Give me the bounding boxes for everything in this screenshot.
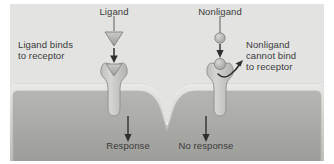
diagram-graphics <box>10 4 324 161</box>
nonligand-title-label: Nonligand <box>186 6 254 18</box>
ligand-binds-line1: Ligand binds <box>18 39 98 51</box>
ligand-binds-line2: to receptor <box>18 50 98 62</box>
ligand-binding-arrow <box>110 48 118 63</box>
ligand-molecule-free <box>105 16 123 46</box>
nonligand-molecule <box>214 16 225 70</box>
receptor-binding-figure: Ligand Nonligand Ligand binds to recepto… <box>0 0 334 164</box>
no-response-label: No response <box>170 140 242 152</box>
ligand-title-label: Ligand <box>84 6 144 18</box>
nonligand-note-line2: cannot bind <box>246 50 324 62</box>
figure-plate: Ligand Nonligand Ligand binds to recepto… <box>10 4 324 161</box>
nonligand-note-line1: Nonligand <box>246 39 324 51</box>
nonligand-note-line3: to receptor <box>246 61 324 73</box>
response-label: Response <box>98 140 158 152</box>
